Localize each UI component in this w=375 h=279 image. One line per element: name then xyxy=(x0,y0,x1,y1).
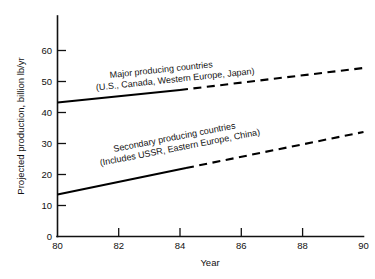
y-tick-label-30: 30 xyxy=(41,138,52,149)
y-axis-ticks xyxy=(58,51,67,206)
x-axis-ticks xyxy=(119,228,303,237)
y-tick-label-20: 20 xyxy=(41,169,52,180)
line-chart: 60 50 40 30 20 10 0 80 82 84 86 88 90 Ye… xyxy=(0,0,375,279)
y-tick-label-50: 50 xyxy=(41,76,52,87)
x-tick-label-80: 80 xyxy=(52,240,63,251)
y-axis-title: Projected production, billion lb/yr xyxy=(15,57,26,194)
secondary-producing-countries-annotation: Secondary producing countries (Includes … xyxy=(97,116,261,168)
secondary-producing-countries-line-solid xyxy=(58,168,187,195)
x-axis-title: Year xyxy=(200,257,219,268)
x-tick-label-88: 88 xyxy=(297,240,308,251)
y-tick-label-40: 40 xyxy=(41,107,52,118)
x-tick-label-84: 84 xyxy=(175,240,186,251)
y-tick-label-10: 10 xyxy=(41,200,52,211)
y-tick-label-0: 0 xyxy=(47,231,52,242)
x-tick-label-90: 90 xyxy=(358,240,369,251)
x-tick-label-82: 82 xyxy=(113,240,124,251)
major-producing-countries-line-solid xyxy=(58,90,181,103)
x-tick-label-86: 86 xyxy=(236,240,247,251)
figure-container: 60 50 40 30 20 10 0 80 82 84 86 88 90 Ye… xyxy=(0,0,375,279)
major-producing-countries-annotation: Major producing countries (U.S., Canada,… xyxy=(94,55,255,93)
y-tick-label-60: 60 xyxy=(41,45,52,56)
